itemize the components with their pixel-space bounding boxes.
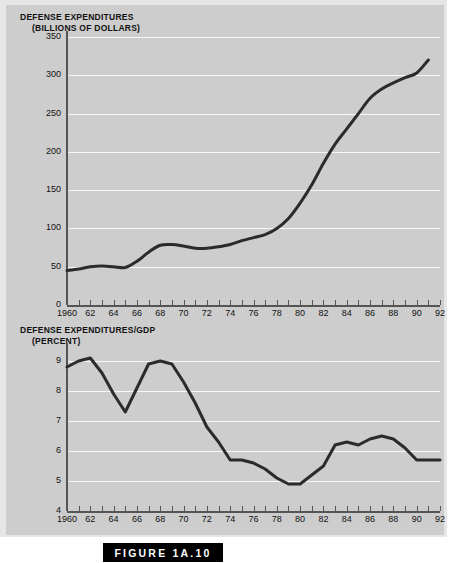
- series-line-defense-expenditures-gdp: [67, 349, 440, 511]
- y-axis-tick-label: 7: [23, 415, 61, 425]
- y-axis-tick-label: 150: [23, 184, 61, 194]
- x-axis-tick: [440, 300, 441, 305]
- x-axis-tick-label: 92: [424, 308, 456, 318]
- chart-title-line1: DEFENSE EXPENDITURES: [20, 12, 134, 22]
- y-axis-tick-label: 250: [23, 108, 61, 118]
- y-axis-tick-label: 5: [23, 475, 61, 485]
- x-axis-tick: [440, 506, 441, 511]
- y-axis-tick-label: 50: [23, 261, 61, 271]
- figure-page: DEFENSE EXPENDITURES (BILLIONS OF DOLLAR…: [0, 0, 459, 563]
- y-axis-tick-label: 200: [23, 146, 61, 156]
- y-axis-tick-label: 6: [23, 445, 61, 455]
- x-axis-tick-label: 92: [424, 514, 456, 524]
- chart-defense-expenditures: DEFENSE EXPENDITURES (BILLIONS OF DOLLAR…: [20, 12, 440, 312]
- x-axis-line: [67, 511, 440, 513]
- series-path: [67, 358, 440, 484]
- series-path: [67, 60, 428, 271]
- plot-area-defense-expenditures-gdp: 4567891960626466687072747678808284868890…: [67, 349, 440, 511]
- chart-defense-expenditures-gdp: DEFENSE EXPENDITURES/GDP (PERCENT) 45678…: [20, 325, 440, 530]
- y-axis-tick-label: 9: [23, 355, 61, 365]
- series-line-defense-expenditures: [67, 37, 440, 305]
- y-axis-tick-label: 8: [23, 385, 61, 395]
- plot-area-defense-expenditures: 0501001502002503003501960626466687072747…: [67, 37, 440, 305]
- y-axis-tick-label: 350: [23, 31, 61, 41]
- chart-title-line1: DEFENSE EXPENDITURES/GDP: [20, 325, 155, 335]
- chart-title-line2: (PERCENT): [32, 336, 81, 346]
- figure-caption: FIGURE 1A.10: [103, 543, 223, 562]
- y-axis-tick-label: 100: [23, 222, 61, 232]
- x-axis-line: [67, 305, 440, 307]
- y-axis-tick-label: 300: [23, 69, 61, 79]
